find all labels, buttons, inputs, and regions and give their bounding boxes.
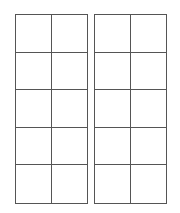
grid-cell [131, 53, 167, 91]
grid-cell [16, 128, 52, 166]
grid-cell [52, 128, 88, 166]
right-grid [94, 14, 167, 204]
grid-cell [95, 53, 131, 91]
grid-cell [95, 90, 131, 128]
grid-cell [52, 90, 88, 128]
grid-cell [95, 15, 131, 53]
grid-cell [95, 128, 131, 166]
grid-cell [131, 90, 167, 128]
grid-cell [52, 165, 88, 203]
grid-cell [16, 90, 52, 128]
grid-cell [16, 15, 52, 53]
grid-cell [52, 53, 88, 91]
left-grid [15, 14, 88, 204]
grid-cell [16, 165, 52, 203]
grid-cell [16, 53, 52, 91]
grid-cell [131, 15, 167, 53]
grid-cell [52, 15, 88, 53]
grid-cell [131, 128, 167, 166]
grid-cell [95, 165, 131, 203]
grid-cell [131, 165, 167, 203]
